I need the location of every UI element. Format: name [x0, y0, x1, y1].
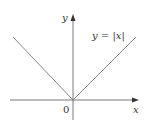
curve-label: y = |x| [91, 30, 125, 42]
abs-value-curve [13, 37, 136, 100]
y-axis-label: y [61, 12, 68, 23]
abs-value-graph: y x 0 y = |x| [0, 0, 147, 127]
y-axis-arrow-icon [71, 14, 76, 21]
x-axis-arrow-icon [132, 98, 139, 103]
x-axis-label: x [133, 104, 139, 115]
origin-label: 0 [63, 104, 69, 115]
